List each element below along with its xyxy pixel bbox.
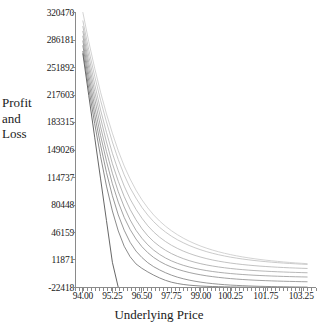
series-line [83,54,307,288]
x-axis-tick-label: 101.75 [246,291,286,301]
series-line [83,51,307,287]
series-line [83,31,307,272]
x-axis-tick-label: 103.25 [281,291,320,301]
axes-group [72,13,317,293]
x-axis-tick-label: 100.25 [210,291,250,301]
series-line [83,21,307,265]
series-line [83,41,307,282]
series-line [83,36,307,277]
curve-series-group [83,13,307,288]
series-line [83,27,307,269]
